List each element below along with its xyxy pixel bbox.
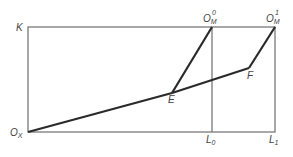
label-k: K <box>16 22 24 33</box>
label-om1-sup: 1 <box>275 9 279 16</box>
edgeworth-box-diagram: K OX OM 0 OM 1 E F L0 L1 <box>0 0 293 157</box>
label-f: F <box>247 70 254 81</box>
segment-e-f <box>172 68 249 93</box>
label-e: E <box>168 94 175 105</box>
label-om0-sup: 0 <box>212 9 216 16</box>
label-l1: L1 <box>269 134 279 146</box>
label-ox: OX <box>10 127 23 139</box>
segment-ox-e <box>28 93 172 132</box>
label-l0: L0 <box>206 134 216 146</box>
segment-f-om1 <box>249 27 275 68</box>
box-frame <box>28 27 275 132</box>
